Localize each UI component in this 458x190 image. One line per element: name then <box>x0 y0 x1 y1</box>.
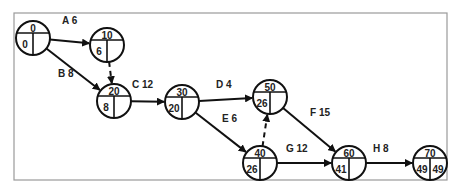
event-node: 6041 <box>332 146 366 180</box>
node-number: 0 <box>30 23 36 34</box>
activity-label: C 12 <box>132 79 154 90</box>
node-number: 40 <box>254 148 266 159</box>
activity-label: B 8 <box>58 68 74 79</box>
event-node: 106 <box>90 28 124 62</box>
node-latest-time: 49 <box>432 164 444 175</box>
node-earliest-time: 49 <box>416 164 428 175</box>
node-earliest-time: 6 <box>96 46 102 57</box>
node-earliest-time: 41 <box>335 164 347 175</box>
node-number: 70 <box>424 148 436 159</box>
node-earliest-time: 0 <box>22 39 28 50</box>
node-number: 30 <box>176 87 188 98</box>
event-node: 704949 <box>413 146 447 180</box>
event-node: 208 <box>97 84 131 118</box>
event-node: 5026 <box>253 80 287 114</box>
node-earliest-time: 8 <box>103 102 109 113</box>
node-number: 50 <box>264 82 276 93</box>
node-number: 10 <box>101 30 113 41</box>
node-earliest-time: 26 <box>256 98 268 109</box>
activity-label: A 6 <box>62 15 78 26</box>
event-node: 4026 <box>243 146 277 180</box>
activity-label: E 6 <box>222 113 237 124</box>
activity-label: H 8 <box>373 143 389 154</box>
activity-label: D 4 <box>216 79 232 90</box>
activity-label: G 12 <box>286 143 308 154</box>
node-number: 20 <box>108 86 120 97</box>
node-number: 60 <box>343 148 355 159</box>
event-node: 00 <box>16 21 50 55</box>
event-node: 3020 <box>165 85 199 119</box>
node-earliest-time: 26 <box>246 164 258 175</box>
network-diagram: 001062083020502640266041704949 A 6B 8C 1… <box>0 0 458 190</box>
activity-label: F 15 <box>310 107 330 118</box>
node-earliest-time: 20 <box>168 103 180 114</box>
diagram-frame <box>14 13 447 180</box>
